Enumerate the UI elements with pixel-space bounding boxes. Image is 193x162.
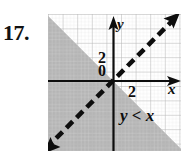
exercise-number: 17. — [3, 22, 29, 44]
y-axis-name-label: y — [117, 17, 124, 32]
x-axis-name-label: x — [168, 82, 176, 97]
origin-label: 0 — [98, 63, 106, 79]
inequality-annotation: y < x — [120, 107, 154, 124]
x-axis-tick-label-2: 2 — [128, 84, 136, 100]
graph-canvas — [48, 14, 181, 151]
coordinate-graph — [48, 14, 181, 151]
